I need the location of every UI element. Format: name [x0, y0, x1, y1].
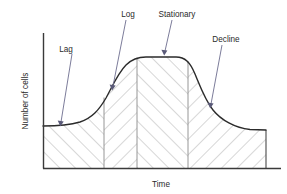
decline-leader-line — [211, 45, 222, 104]
y-axis-label: Number of cells — [21, 73, 30, 130]
lag-leader-line — [61, 54, 72, 122]
lag-phase-band — [43, 30, 104, 170]
label-lag: Lag — [59, 45, 73, 54]
label-stationary: Stationary — [159, 10, 197, 19]
decline-phase-band — [188, 30, 267, 170]
x-axis-label: Time — [152, 180, 170, 189]
curve-fill-hatching — [43, 30, 267, 170]
growth-curve-figure: Lag Log Stationary Decline Number of cel… — [0, 0, 287, 194]
log-phase-band — [104, 30, 137, 170]
stationary-leader-line — [165, 20, 172, 51]
growth-curve-svg: Lag Log Stationary Decline Number of cel… — [0, 0, 287, 194]
stationary-leader-arrowhead — [161, 50, 167, 56]
label-log: Log — [121, 10, 135, 19]
label-decline: Decline — [212, 35, 240, 44]
